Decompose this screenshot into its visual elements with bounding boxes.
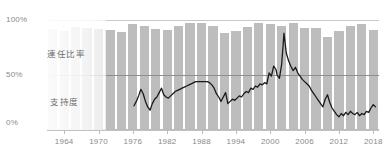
- y-axis-label-100: 100%: [6, 15, 27, 24]
- x-tick-1976: [133, 130, 134, 134]
- x-tick-label-2006: 2006: [295, 137, 314, 146]
- chart-container: 100% 50% 0% 連任比率 支持度 1964197019761982198…: [0, 0, 389, 160]
- x-tick-label-1970: 1970: [89, 137, 108, 146]
- x-tick-label-1994: 1994: [227, 137, 246, 146]
- x-tick-label-1982: 1982: [158, 137, 177, 146]
- x-tick-2012: [339, 130, 340, 134]
- y-axis-label-0: 0%: [6, 118, 18, 127]
- plot-area: [47, 20, 379, 130]
- x-tick-label-2018: 2018: [364, 137, 383, 146]
- series-annotation-reelection-rate: 連任比率: [47, 47, 85, 59]
- y-axis-label-50: 50%: [6, 70, 23, 79]
- x-tick-label-2000: 2000: [261, 137, 280, 146]
- x-axis-line: [47, 130, 379, 131]
- x-tick-label-1976: 1976: [124, 137, 143, 146]
- x-tick-label-2012: 2012: [330, 137, 349, 146]
- x-tick-1982: [167, 130, 168, 134]
- x-tick-label-1964: 1964: [55, 137, 74, 146]
- series-annotation-approval-rating: 支持度: [50, 95, 79, 107]
- x-tick-1994: [236, 130, 237, 134]
- approval-line-path: [134, 33, 376, 117]
- x-tick-2000: [270, 130, 271, 134]
- line-series-approval-rating: [47, 20, 379, 130]
- x-axis: 1964197019761982198819942000200620122018: [47, 130, 379, 160]
- x-tick-1988: [202, 130, 203, 134]
- x-tick-label-1988: 1988: [192, 137, 211, 146]
- approval-line-svg: [47, 20, 379, 130]
- x-tick-2018: [373, 130, 374, 134]
- x-tick-1964: [64, 130, 65, 134]
- x-tick-1970: [99, 130, 100, 134]
- x-tick-2006: [305, 130, 306, 134]
